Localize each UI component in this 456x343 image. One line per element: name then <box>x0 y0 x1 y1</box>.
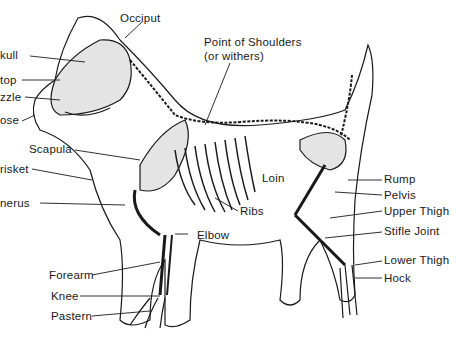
label-pelvis: Pelvis <box>384 189 416 202</box>
tibia <box>295 215 345 265</box>
label-stifle-joint: Stifle Joint <box>384 225 439 238</box>
label-pastern: Pastern <box>51 310 92 323</box>
label-humerus: nerus <box>0 197 30 210</box>
label-brisket: risket <box>0 163 29 176</box>
dog-skeleton-diagram: Occiput kull top zzle ose Point of Shoul… <box>0 0 456 343</box>
pelvis <box>300 133 346 171</box>
label-stop: top <box>0 74 17 87</box>
label-point-of-shoulders: Point of Shoulders <box>204 36 302 49</box>
label-ribs: Ribs <box>240 205 264 218</box>
scapula <box>140 120 188 191</box>
forearm-bone-2 <box>167 235 172 295</box>
front-paw <box>130 298 165 328</box>
label-elbow: Elbow <box>197 229 229 242</box>
label-withers: (or withers) <box>204 50 264 63</box>
label-nose: ose <box>0 114 19 127</box>
label-lower-thigh: Lower Thigh <box>384 254 449 267</box>
label-hock: Hock <box>384 272 411 285</box>
label-forearm: Forearm <box>49 269 94 282</box>
femur <box>295 165 325 215</box>
spine <box>130 60 350 140</box>
label-loin: Loin <box>262 172 285 185</box>
label-rump: Rump <box>384 173 415 186</box>
label-muzzle: zzle <box>0 91 21 104</box>
label-scapula: Scapula <box>29 143 72 156</box>
humerus-bone <box>134 190 160 235</box>
label-occiput: Occiput <box>120 12 160 25</box>
label-upper-thigh: Upper Thigh <box>384 205 449 218</box>
forearm-bone <box>160 235 165 295</box>
label-knee: Knee <box>51 290 79 303</box>
label-skull: kull <box>0 49 18 62</box>
